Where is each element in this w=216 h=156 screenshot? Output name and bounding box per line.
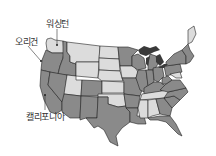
label-washington: 워싱턴 [46, 17, 69, 30]
state-utah[interactable] [64, 75, 82, 96]
washington-marker [56, 44, 58, 46]
state-newyork[interactable] [166, 50, 186, 66]
state-mississippi[interactable] [138, 100, 148, 118]
state-wyoming[interactable] [76, 62, 99, 78]
state-northdakota[interactable] [99, 46, 119, 59]
oregon-leader [28, 46, 41, 61]
state-kansas[interactable] [102, 81, 124, 93]
state-southdakota[interactable] [99, 58, 120, 71]
state-maine[interactable] [188, 26, 196, 44]
state-washington[interactable] [46, 38, 64, 53]
label-oregon: 오리건 [15, 35, 38, 48]
oregon-marker [40, 60, 42, 62]
us-map [0, 0, 216, 156]
state-newmexico[interactable] [80, 96, 98, 120]
california-marker [44, 94, 46, 96]
state-wisconsin[interactable] [132, 54, 146, 70]
state-nebraska[interactable] [98, 70, 123, 81]
state-florida[interactable] [148, 116, 182, 136]
label-california: 캘리포니아 [26, 110, 65, 123]
state-montana[interactable] [67, 42, 100, 64]
state-arkansas[interactable] [124, 94, 140, 108]
state-colorado[interactable] [81, 80, 102, 96]
